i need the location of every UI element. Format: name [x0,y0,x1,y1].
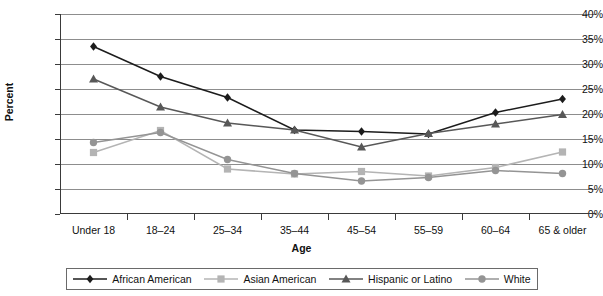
x-axis-tick-mark [529,214,530,220]
x-axis-tick-mark [328,214,329,220]
legend-item-african-american[interactable]: African American [73,272,191,286]
x-axis-tick-label: Under 18 [72,224,115,236]
x-axis-tick-label: 55–59 [414,224,443,236]
legend-label: African American [110,273,191,285]
x-axis-tick-label: 35–44 [280,224,309,236]
x-axis-tick-label: 45–54 [347,224,376,236]
line-chart: 0%5%10%15%20%25%30%35%40% Percent Under … [0,0,603,296]
x-axis-tick-label: 25–34 [213,224,242,236]
x-axis-tick-mark [194,214,195,220]
plot-area [60,14,596,214]
legend-label: White [502,273,531,285]
x-axis-tick-label: 60–64 [481,224,510,236]
legend-swatch-diamond-icon [73,272,107,286]
x-axis-tick-mark [261,214,262,220]
x-axis-title: Age [0,242,603,254]
x-axis-tick-label: 65 & older [539,224,587,236]
legend-item-hispanic-or-latino[interactable]: Hispanic or Latino [329,272,452,286]
x-axis-tick-label: 18–24 [146,224,175,236]
legend-label: Asian American [241,273,316,285]
legend-swatch-triangle-icon [329,272,363,286]
x-axis-tick-mark [462,214,463,220]
y-axis-tick-mark [55,214,60,215]
legend-swatch-square-icon [204,272,238,286]
x-axis-tick-mark [395,214,396,220]
legend-swatch-circle-icon [465,272,499,286]
legend-item-asian-american[interactable]: Asian American [204,272,316,286]
x-axis-tick-mark [127,214,128,220]
legend-label: Hispanic or Latino [366,273,452,285]
legend-item-white[interactable]: White [465,272,531,286]
y-axis-title: Percent [3,67,15,137]
chart-legend: African AmericanAsian AmericanHispanic o… [66,268,538,290]
